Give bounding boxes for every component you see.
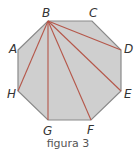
vertex-label-c: C (89, 6, 98, 20)
vertex-label-h: H (7, 87, 16, 101)
vertex-label-f: F (87, 123, 95, 137)
figure-caption: figura 3 (47, 137, 90, 150)
vertex-label-b: B (42, 6, 50, 20)
vertex-label-e: E (124, 87, 132, 101)
vertex-label-a: A (8, 42, 17, 56)
octagon-diagram: ABCDEFGH figura 3 (0, 0, 137, 152)
vertex-label-g: G (43, 124, 52, 138)
vertex-label-d: D (124, 42, 133, 56)
